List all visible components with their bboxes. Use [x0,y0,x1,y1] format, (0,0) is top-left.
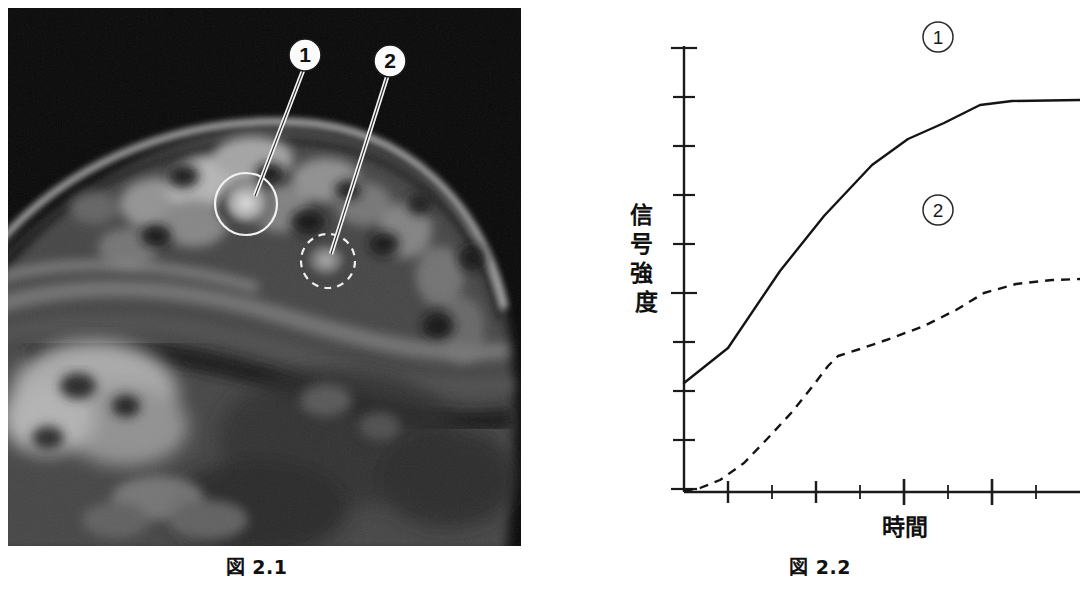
series-2-legend: 2 [923,195,953,225]
mri-image: 1 2 [8,8,521,546]
figure-page: 1 2 図 2.1 [0,0,1087,591]
callout-2-label: 2 [384,49,396,72]
figure-2-1-caption: 図 2.1 [0,552,513,579]
figure-2-2: 1 2 信 号 強 度 時間 [560,8,1080,546]
svg-text:信 号 強: 信 号 強 度 [630,202,661,315]
chart-axes [671,46,1080,505]
series-1-legend: 1 [923,22,953,52]
callout-1-label: 1 [299,43,311,66]
x-axis-label: 時間 [882,514,928,540]
figure-2-1: 1 2 [8,8,521,546]
series-2-legend-label: 2 [933,200,944,221]
signal-intensity-chart: 1 2 信 号 強 度 時間 [560,8,1080,546]
figure-2-2-caption: 図 2.2 [560,552,1080,579]
series-2-line [684,279,1080,491]
series-1-legend-label: 1 [933,27,944,48]
y-axis-label: 信 号 強 度 [630,202,661,315]
mri-scan-graphic: 1 2 [8,8,521,546]
